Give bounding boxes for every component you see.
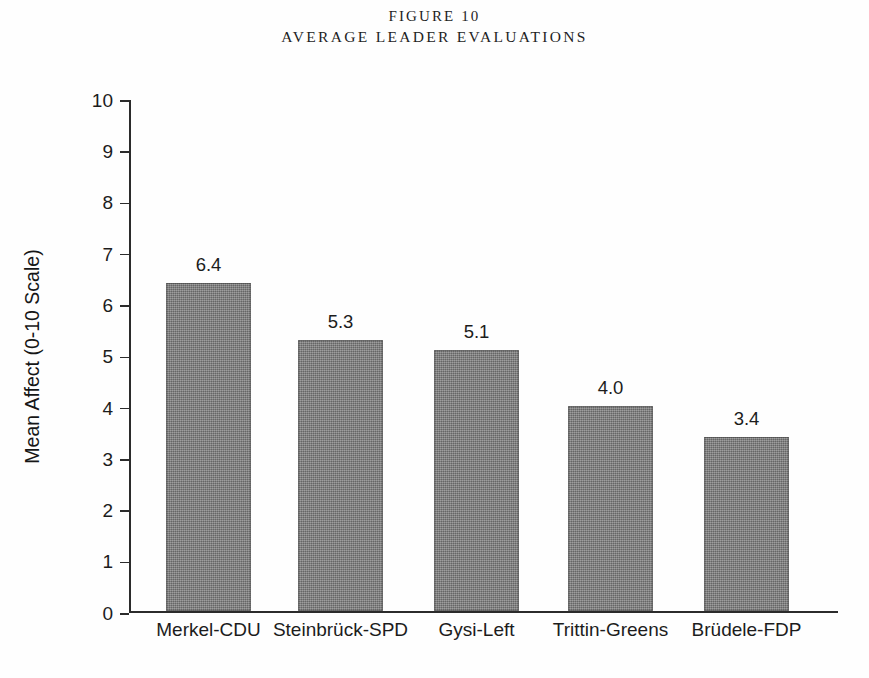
y-tick-label-6: 6 bbox=[102, 295, 113, 317]
figure-caption: AVERAGE LEADER EVALUATIONS bbox=[0, 26, 869, 47]
bar-trittin-greens[interactable]: 4.0 Trittin-Greens bbox=[568, 406, 653, 611]
bar-value-label: 6.4 bbox=[196, 254, 222, 276]
y-tick-8: 8 bbox=[120, 203, 129, 205]
y-tick-6: 6 bbox=[120, 305, 129, 307]
y-tick-5: 5 bbox=[120, 357, 129, 359]
y-tick-label-3: 3 bbox=[102, 449, 113, 471]
y-tick-2: 2 bbox=[120, 510, 129, 512]
y-tick-9: 9 bbox=[120, 151, 129, 153]
y-tick-label-9: 9 bbox=[102, 141, 113, 163]
y-tick-label-7: 7 bbox=[102, 244, 113, 266]
x-tick-label-trittin-greens: Trittin-Greens bbox=[553, 619, 668, 641]
y-tick-1: 1 bbox=[120, 562, 129, 564]
y-axis-title: Mean Affect (0-10 Scale) bbox=[18, 100, 46, 613]
y-tick-label-8: 8 bbox=[102, 192, 113, 214]
x-tick-label-bruedele-fdp: Brüdele-FDP bbox=[692, 619, 802, 641]
y-tick-label-4: 4 bbox=[102, 398, 113, 420]
y-tick-3: 3 bbox=[120, 459, 129, 461]
x-tick-label-merkel-cdu: Merkel-CDU bbox=[156, 619, 261, 641]
y-tick-label-5: 5 bbox=[102, 346, 113, 368]
bar-steinbrueck-spd[interactable]: 5.3 Steinbrück-SPD bbox=[298, 340, 383, 612]
x-tick-label-steinbrueck-spd: Steinbrück-SPD bbox=[273, 619, 408, 641]
bar-value-label: 5.3 bbox=[328, 311, 354, 333]
y-tick-7: 7 bbox=[120, 254, 129, 256]
bar-value-label: 3.4 bbox=[734, 408, 760, 430]
y-tick-4: 4 bbox=[120, 408, 129, 410]
x-axis-line bbox=[129, 611, 838, 613]
figure-container: FIGURE 10 AVERAGE LEADER EVALUATIONS Mea… bbox=[0, 0, 869, 678]
y-tick-0: 0 bbox=[120, 613, 129, 615]
y-tick-label-0: 0 bbox=[102, 603, 113, 625]
plot-area: 10 9 8 7 6 5 4 3 2 1 0 6.4 Merkel-CDU 5.… bbox=[129, 100, 838, 613]
y-tick-label-10: 10 bbox=[92, 90, 113, 112]
bar-gysi-left[interactable]: 5.1 Gysi-Left bbox=[434, 350, 519, 612]
y-axis-line bbox=[129, 100, 131, 613]
y-tick-label-1: 1 bbox=[102, 551, 113, 573]
y-tick-10: 10 bbox=[120, 100, 129, 102]
figure-title: FIGURE 10 AVERAGE LEADER EVALUATIONS bbox=[0, 6, 869, 47]
bar-merkel-cdu[interactable]: 6.4 Merkel-CDU bbox=[166, 283, 251, 611]
y-axis-title-text: Mean Affect (0-10 Scale) bbox=[21, 249, 44, 463]
bar-bruedele-fdp[interactable]: 3.4 Brüdele-FDP bbox=[704, 437, 789, 611]
bar-value-label: 5.1 bbox=[464, 321, 490, 343]
x-tick-label-gysi-left: Gysi-Left bbox=[438, 619, 514, 641]
bar-value-label: 4.0 bbox=[598, 377, 624, 399]
y-tick-label-2: 2 bbox=[102, 500, 113, 522]
figure-number: FIGURE 10 bbox=[0, 6, 869, 26]
